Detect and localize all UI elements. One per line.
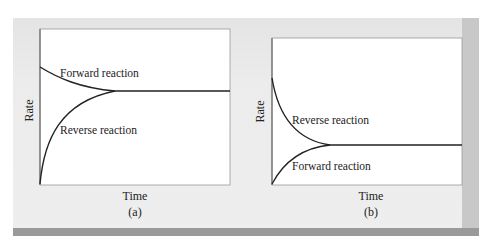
plot-b-reverse-label: Reverse reaction: [292, 114, 369, 126]
plot-b-xlabel: Time: [356, 189, 386, 204]
plot-a-area: [40, 29, 230, 185]
plot-a-reverse-label: Reverse reaction: [60, 124, 137, 136]
plot-b-ylabel: Rate: [253, 97, 268, 127]
plot-a-ylabel: Rate: [22, 96, 37, 126]
plot-a-panel-label: (a): [120, 205, 150, 220]
plot-a-xlabel: Time: [120, 189, 150, 204]
plot-a-forward-label: Forward reaction: [60, 67, 139, 79]
plot-b-panel-label: (b): [356, 205, 386, 220]
plot-b-forward-label: Forward reaction: [292, 160, 371, 172]
